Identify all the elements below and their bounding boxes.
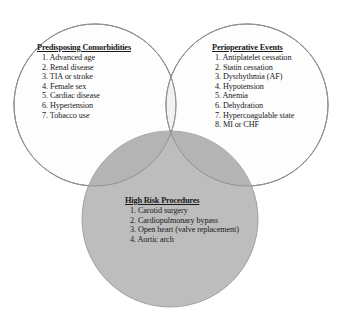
caption-strip bbox=[0, 300, 338, 311]
group-list-procedures: 1. Carotid surgery 2. Cardiopulmonary by… bbox=[105, 206, 239, 244]
list-item: 6. Dehydration bbox=[215, 101, 294, 111]
list-item: 3. Dysrhythmia (AF) bbox=[215, 72, 294, 82]
list-item: 7. Tobacco use bbox=[42, 111, 131, 121]
group-title-comorbidities: Predisposing Comorbidities bbox=[37, 43, 131, 53]
group-predisposing-comorbidities: Predisposing Comorbidities 1. Advanced a… bbox=[37, 43, 131, 120]
list-item: 4. Hypotension bbox=[215, 82, 294, 92]
group-title-perioperative: Perioperative Events bbox=[190, 43, 294, 53]
list-item: 5. Anemia bbox=[215, 91, 294, 101]
list-item: 3. TIA or stroke bbox=[42, 72, 131, 82]
list-item: 1. Antiplatelet cessation bbox=[215, 53, 294, 63]
list-item: 2. Renal disease bbox=[42, 63, 131, 73]
group-title-procedures: High Risk Procedures bbox=[105, 196, 239, 206]
list-item: 7. Hypercoagulable state bbox=[215, 111, 294, 121]
list-item: 4. Aortic arch bbox=[130, 235, 239, 245]
group-list-perioperative: 1. Antiplatelet cessation 2. Statin cess… bbox=[190, 53, 294, 130]
list-item: 4. Female sex bbox=[42, 82, 131, 92]
list-item: 6. Hypertension bbox=[42, 101, 131, 111]
list-item: 3. Open heart (valve replacement) bbox=[130, 225, 239, 235]
list-item: 2. Statin cessation bbox=[215, 63, 294, 73]
group-list-comorbidities: 1. Advanced age 2. Renal disease 3. TIA … bbox=[37, 53, 131, 120]
list-item: 5. Cardiac disease bbox=[42, 91, 131, 101]
group-perioperative-events: Perioperative Events 1. Antiplatelet ces… bbox=[190, 43, 294, 130]
venn-diagram-figure: Predisposing Comorbidities 1. Advanced a… bbox=[0, 0, 338, 311]
list-item: 2. Cardiopulmonary bypass bbox=[130, 216, 239, 226]
list-item: 1. Advanced age bbox=[42, 53, 131, 63]
list-item: 8. MI or CHF bbox=[215, 120, 294, 130]
list-item: 1. Carotid surgery bbox=[130, 206, 239, 216]
group-high-risk-procedures: High Risk Procedures 1. Carotid surgery … bbox=[105, 196, 239, 244]
